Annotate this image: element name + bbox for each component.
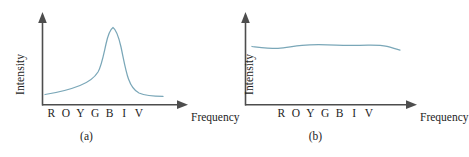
spectrum-curve-b [252,45,400,51]
tick-label-i-a: I [117,107,132,119]
panel-caption-a: (a) [0,130,200,142]
y-axis-arrowhead-b [241,12,250,23]
tick-label-o-a: O [59,107,74,119]
x-tick-labels-a: R O Y G B I V [44,107,146,119]
x-axis-label-b: Frequency [420,111,469,123]
x-axis-arrowhead-a [177,100,188,109]
tick-label-g-a: G [88,107,103,119]
tick-label-o-b: O [289,107,304,119]
x-axis-arrowhead-b [406,100,417,109]
chart-panel-b: Intensity R O Y G B I V Frequency (b) [226,0,453,157]
tick-label-y-b: Y [303,107,318,119]
tick-label-v-b: V [362,107,377,119]
tick-label-y-a: Y [73,107,88,119]
y-axis-arrowhead-a [38,12,47,23]
tick-label-r-a: R [44,107,59,119]
tick-label-r-b: R [274,107,289,119]
x-tick-labels-b: R O Y G B I V [274,107,376,119]
tick-label-g-b: G [318,107,333,119]
tick-label-b-a: B [102,107,117,119]
y-axis-label-a: Intensity [14,54,26,95]
panel-caption-b: (b) [202,130,429,142]
y-axis-label-b: Intensity [243,54,255,95]
chart-panel-a: Intensity R O Y G B I V Frequency (a) [0,0,227,157]
spectrum-curve-a [45,28,163,97]
tick-label-i-b: I [347,107,362,119]
tick-label-b-b: B [332,107,347,119]
tick-label-v-a: V [132,107,147,119]
